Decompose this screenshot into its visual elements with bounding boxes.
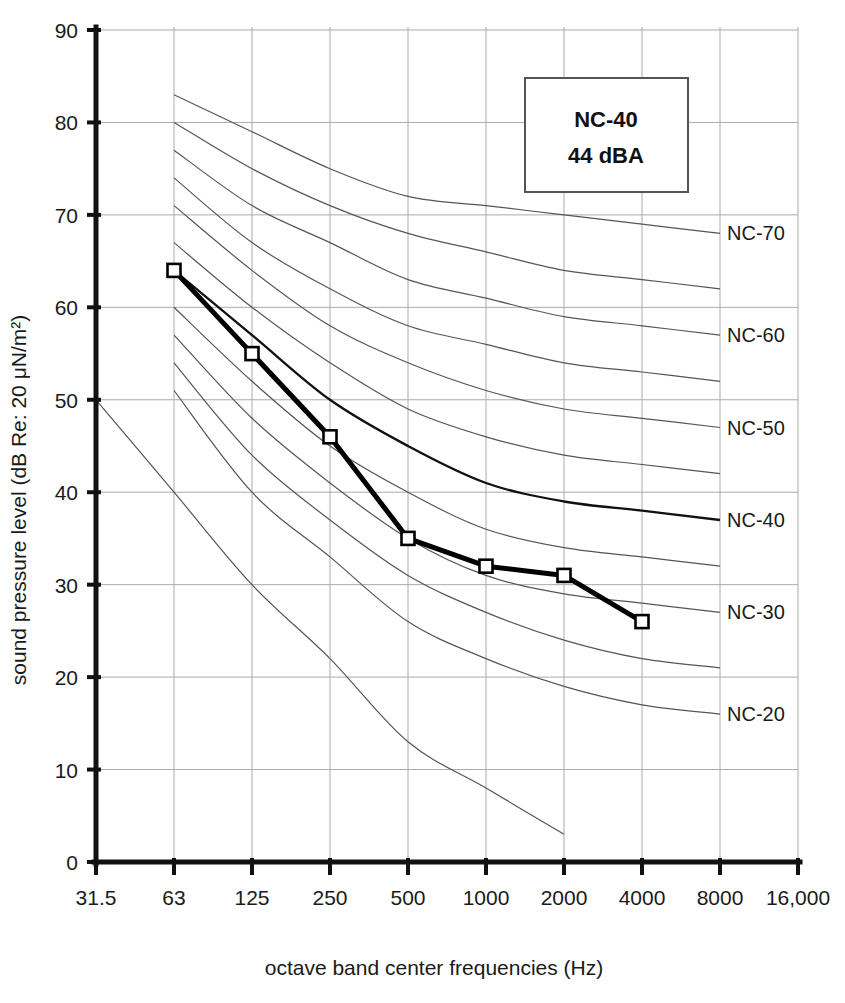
- y-tick-label: 20: [55, 666, 78, 689]
- y-tick-label: 30: [55, 574, 78, 597]
- x-tick-label: 125: [234, 886, 269, 909]
- y-tick-label: 10: [55, 759, 78, 782]
- x-tick-label: 4000: [619, 886, 666, 909]
- series-data-point: [246, 347, 259, 360]
- nc-right-label: NC-50: [727, 417, 785, 439]
- x-tick-label: 250: [312, 886, 347, 909]
- series-data-point: [402, 532, 415, 545]
- x-tick-label: 31.5: [76, 886, 117, 909]
- chart-background: [0, 0, 845, 1003]
- series-data-point: [324, 430, 337, 443]
- x-tick-label: 500: [390, 886, 425, 909]
- y-tick-label: 90: [55, 19, 78, 42]
- nc-right-label: NC-40: [727, 509, 785, 531]
- legend-nc-rating: NC-40: [574, 107, 638, 132]
- y-tick-label: 0: [66, 851, 78, 874]
- nc-right-label: NC-70: [727, 222, 785, 244]
- series-data-point: [168, 264, 181, 277]
- y-tick-label: 70: [55, 204, 78, 227]
- y-tick-label: 50: [55, 389, 78, 412]
- nc-right-label: NC-30: [727, 601, 785, 623]
- series-data-point: [558, 569, 571, 582]
- y-tick-label: 60: [55, 296, 78, 319]
- legend-dba-value: 44 dBA: [568, 143, 644, 168]
- nc-chart-container: 0102030405060708090 31.56312525050010002…: [0, 0, 845, 1003]
- nc-right-label: NC-20: [727, 703, 785, 725]
- series-data-point: [480, 560, 493, 573]
- y-axis-title: sound pressure level (dB Re: 20 μN/m²): [7, 315, 30, 685]
- nc-right-label: NC-60: [727, 324, 785, 346]
- annotation-legend-box: NC-40 44 dBA: [525, 78, 688, 192]
- x-tick-label: 8000: [697, 886, 744, 909]
- series-data-point: [636, 615, 649, 628]
- x-tick-label: 1000: [463, 886, 510, 909]
- x-tick-label: 2000: [541, 886, 588, 909]
- y-tick-label: 40: [55, 481, 78, 504]
- legend-box-frame: [525, 78, 688, 192]
- noise-criteria-chart: 0102030405060708090 31.56312525050010002…: [0, 0, 845, 1003]
- x-tick-label: 63: [162, 886, 185, 909]
- y-tick-label: 80: [55, 111, 78, 134]
- x-axis-title: octave band center frequencies (Hz): [265, 956, 604, 979]
- x-tick-label: 16,000: [766, 886, 830, 909]
